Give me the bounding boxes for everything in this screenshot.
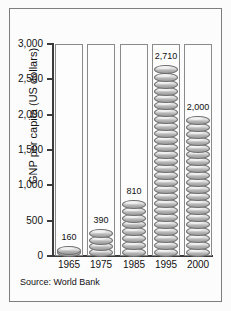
chart-column <box>55 44 83 256</box>
coin-icon <box>186 116 210 125</box>
coin-stack <box>121 45 147 255</box>
data-value-label: 390 <box>93 215 108 225</box>
y-axis-tick-label: 0 <box>37 250 43 261</box>
coin-stack <box>185 45 211 255</box>
coin-stack <box>153 45 179 255</box>
chart-figure: 05001,0001,5002,0002,5003,000 GNP per ca… <box>0 0 231 311</box>
coin-icon <box>122 200 146 209</box>
source-note: Source: World Bank <box>20 277 100 287</box>
data-value-label: 2,000 <box>187 102 210 112</box>
chart-column <box>184 44 212 256</box>
x-axis-tick-label: 2000 <box>178 259 218 270</box>
chart-column <box>152 44 180 256</box>
y-axis-title: GNP per capita (US dollars) <box>27 21 39 211</box>
data-value-label: 160 <box>61 232 76 242</box>
plot-area: 1603908102,7102,000 <box>53 44 213 256</box>
y-axis-tick-label: 500 <box>26 215 43 226</box>
coin-stack <box>56 45 82 255</box>
data-value-label: 810 <box>126 186 141 196</box>
coin-icon <box>57 246 81 255</box>
chart-column <box>120 44 148 256</box>
data-value-label: 2,710 <box>155 51 178 61</box>
